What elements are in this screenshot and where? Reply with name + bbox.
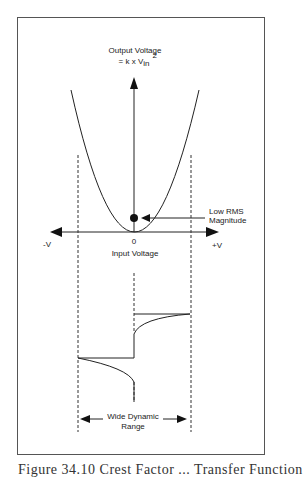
formula-prefix: = k x V bbox=[119, 57, 144, 66]
annotation-line2: Magnitude bbox=[209, 216, 246, 225]
range-label-line2: Range bbox=[121, 422, 145, 431]
range-right-arrowhead-icon bbox=[177, 415, 187, 423]
low-rms-dot bbox=[130, 214, 138, 222]
figure-caption: Figure 34.10 Crest Factor ... Transfer F… bbox=[18, 462, 303, 478]
formula-superscript: 2 bbox=[153, 51, 157, 60]
output-waveform bbox=[78, 314, 190, 402]
x-origin-label: 0 bbox=[132, 237, 136, 246]
x-axis-label: Input Voltage bbox=[112, 249, 159, 258]
y-axis-arrowhead-icon bbox=[130, 77, 138, 89]
annotation-arrowhead-icon bbox=[141, 214, 150, 222]
annotation-line1: Low RMS bbox=[209, 207, 244, 216]
range-label-line1: Wide Dynamic bbox=[107, 412, 159, 421]
y-axis bbox=[130, 77, 138, 232]
annotation-arrow bbox=[141, 214, 205, 222]
x-axis-left-arrowhead-icon bbox=[50, 227, 62, 237]
x-axis-right-arrowhead-icon bbox=[206, 227, 219, 237]
x-positive-label: +V bbox=[212, 241, 222, 250]
parabola-curve bbox=[71, 90, 199, 232]
y-axis-formula: = k x Vin2 bbox=[119, 57, 150, 66]
x-negative-label: -V bbox=[43, 240, 51, 249]
range-left-arrowhead-icon bbox=[80, 415, 90, 423]
formula-subscript: in bbox=[143, 59, 149, 68]
